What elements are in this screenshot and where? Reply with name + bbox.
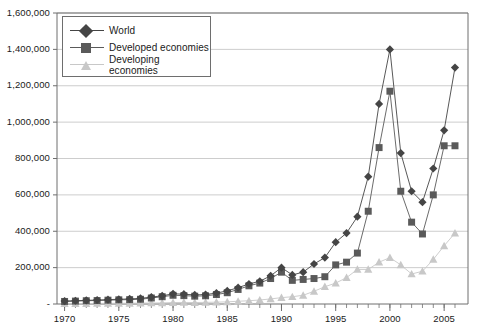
x-axis-tick-label: 1990 (256, 313, 306, 324)
y-axis-tick-label: 1,400,000 (7, 43, 50, 54)
y-axis-tick-label: 1,200,000 (7, 79, 50, 90)
legend-item-developing: Developing economies (63, 56, 210, 73)
legend-item-world: World (63, 22, 210, 39)
legend-swatch-developing (70, 58, 104, 72)
y-axis-tick-label: 1,600,000 (7, 7, 50, 18)
legend-swatch-developed (70, 41, 104, 55)
square-icon (81, 43, 91, 53)
legend-label-developing: Developing economies (109, 54, 210, 76)
x-axis-tick-label: 2000 (365, 313, 415, 324)
chart-legend: World Developed economies Developing eco… (62, 16, 211, 77)
triangle-icon (81, 61, 91, 70)
x-axis-tick-label: 2005 (419, 313, 469, 324)
chart-container: World Developed economies Developing eco… (0, 0, 479, 336)
y-axis-tick-label: 1,000,000 (7, 116, 50, 127)
x-axis-tick-label: 1980 (148, 313, 198, 324)
x-axis-tick-label: 1970 (40, 313, 90, 324)
y-axis-tick-label: 400,000 (15, 225, 50, 236)
x-axis-tick-label: 1995 (311, 313, 361, 324)
x-axis-tick-label: 1985 (202, 313, 252, 324)
legend-label-developed: Developed economies (109, 42, 209, 53)
legend-label-world: World (109, 25, 135, 36)
legend-swatch-world (70, 24, 104, 38)
y-axis-tick-label: 800,000 (15, 152, 50, 163)
x-axis-tick-label: 1975 (94, 313, 144, 324)
diamond-icon (79, 23, 93, 37)
y-axis-tick-label: 200,000 (15, 261, 50, 272)
y-axis-tick-label: - (47, 298, 50, 309)
y-axis-tick-label: 600,000 (15, 188, 50, 199)
